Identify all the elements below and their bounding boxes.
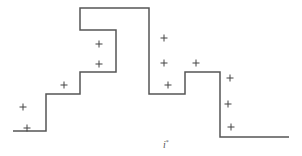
plus-marker bbox=[20, 104, 27, 111]
plus-marker bbox=[61, 82, 68, 89]
plus-marker bbox=[96, 61, 103, 68]
plus-marker bbox=[161, 35, 168, 42]
step-function-line bbox=[13, 8, 289, 137]
step-function-diagram bbox=[0, 0, 302, 156]
plus-marker bbox=[161, 60, 168, 67]
x-axis-label: i* bbox=[163, 139, 169, 150]
plus-marker bbox=[193, 60, 200, 67]
plus-marker bbox=[227, 75, 234, 82]
plus-marker bbox=[225, 101, 232, 108]
data-markers bbox=[20, 35, 235, 132]
x-axis-label-sup: * bbox=[166, 139, 169, 145]
plus-marker bbox=[96, 41, 103, 48]
plus-marker bbox=[228, 124, 235, 131]
plus-marker bbox=[165, 82, 172, 89]
